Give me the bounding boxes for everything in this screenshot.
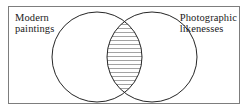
- set-label-right: Photographic likenesses: [180, 13, 237, 34]
- set-label-right-line1: Photographic: [180, 13, 237, 24]
- set-label-left: Modern paintings: [15, 13, 54, 34]
- set-label-left-line1: Modern: [15, 13, 54, 24]
- set-label-right-line2: likenesses: [180, 24, 237, 35]
- set-label-left-line2: paintings: [15, 24, 54, 35]
- venn-diagram-figure: Modern paintings Photographic likenesses: [0, 0, 250, 112]
